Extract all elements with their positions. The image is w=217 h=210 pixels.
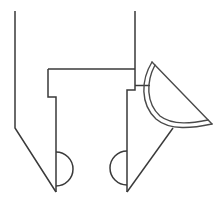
technical-line-drawing xyxy=(0,0,217,210)
drawing-canvas xyxy=(0,0,217,210)
canvas-background xyxy=(0,0,217,210)
